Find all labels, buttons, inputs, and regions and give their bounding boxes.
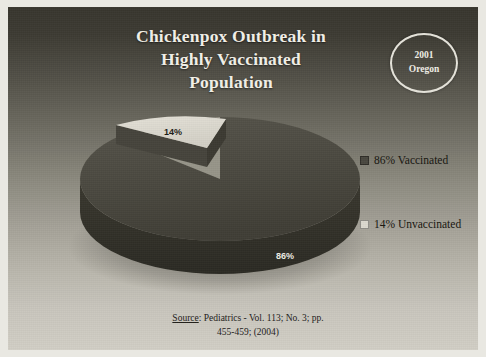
legend-label-vaccinated: 86% Vaccinated [374, 155, 448, 167]
slide-canvas: Chickenpox Outbreak in Highly Vaccinated… [8, 7, 478, 350]
slide-frame: Chickenpox Outbreak in Highly Vaccinated… [0, 0, 486, 357]
source-reference: : Pediatrics - Vol. 113; No. 3; pp. [199, 313, 324, 323]
legend-item-vaccinated[interactable]: 86% Vaccinated [360, 155, 478, 167]
legend-swatch-unvaccinated [360, 220, 369, 229]
legend-swatch-vaccinated [360, 156, 369, 165]
source-citation: Source: Pediatrics - Vol. 113; No. 3; pp… [108, 312, 388, 340]
pie-data-label-unvaccinated: 14% [164, 127, 182, 137]
legend-item-unvaccinated[interactable]: 14% Unvaccinated [360, 219, 478, 231]
legend-label-unvaccinated: 14% Unvaccinated [374, 219, 461, 231]
pie-data-label-vaccinated: 86% [276, 251, 294, 261]
source-label: Source [172, 313, 198, 323]
chart-legend: 86% Vaccinated 14% Unvaccinated [360, 155, 478, 230]
source-line-2: 455-459; (2004) [108, 326, 388, 340]
source-line-1: Source: Pediatrics - Vol. 113; No. 3; pp… [108, 312, 388, 326]
